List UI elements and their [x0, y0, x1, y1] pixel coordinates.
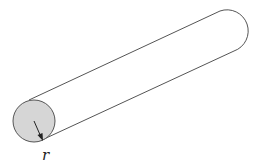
cylinder-far-end-arc	[220, 10, 248, 51]
cylinder-top-edge	[29, 11, 220, 100]
radius-label: r	[42, 146, 50, 164]
cylinder-bottom-edge	[44, 51, 234, 139]
cylinder-diagram: r	[0, 0, 258, 168]
